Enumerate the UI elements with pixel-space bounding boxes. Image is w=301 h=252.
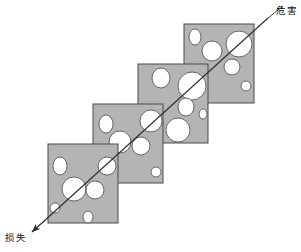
- panel-4-hole-4: [224, 59, 240, 75]
- panel-2-hole-5: [151, 167, 161, 177]
- panel-2-hole-4: [140, 110, 162, 132]
- panel-1-hole-3: [86, 181, 104, 199]
- panel-3-hole-4: [199, 109, 207, 119]
- panel-1: [48, 144, 118, 223]
- panel-1-hole-1: [53, 157, 67, 175]
- panel-1-hole-6: [83, 211, 93, 223]
- panel-4-hole-5: [241, 81, 251, 91]
- accident-trajectory-arrow: [32, 18, 268, 232]
- panel-1-hole-4: [98, 157, 116, 175]
- panel-3-hole-5: [166, 118, 190, 142]
- panel-4-hole-2: [202, 41, 222, 61]
- panel-3-hole-3: [178, 98, 194, 116]
- swiss-cheese-model-figure: 危害 损失: [0, 0, 301, 252]
- panel-2-hole-3: [132, 137, 150, 155]
- panel-4-hole-1: [189, 29, 201, 45]
- diagram-canvas: [0, 0, 301, 252]
- hazard-label: 危害: [276, 6, 297, 16]
- panel-1-hole-2: [62, 177, 86, 201]
- panel-3-hole-1: [152, 68, 170, 88]
- panel-2-hole-1: [99, 115, 113, 133]
- loss-label: 损失: [5, 233, 26, 243]
